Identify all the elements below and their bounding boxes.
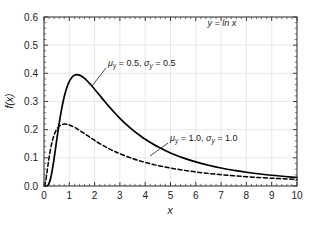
x-tick-label: 9 <box>269 190 275 201</box>
y-tick-label: 0.4 <box>24 68 38 79</box>
x-tick-label: 8 <box>244 190 250 201</box>
y-axis-title: f(x) <box>3 93 15 108</box>
y-tick-label: 0.2 <box>24 124 38 135</box>
x-tick-label: 1 <box>67 190 73 201</box>
x-tick-label: 5 <box>168 190 174 201</box>
transform-annotation-text: y = ln x <box>207 18 237 28</box>
y-tick-label: 0.6 <box>24 12 38 23</box>
chart-canvas: 012345678910 0.00.10.20.30.40.50.6 x f(x… <box>0 0 309 225</box>
x-axis-title: x <box>166 204 173 216</box>
x-tick-label: 4 <box>142 190 148 201</box>
x-tick-label: 7 <box>218 190 224 201</box>
y-tick-label: 0.5 <box>24 40 38 51</box>
y-tick-label: 0.3 <box>24 96 38 107</box>
x-tick-label: 0 <box>41 190 47 201</box>
y-tick-label: 0.0 <box>24 181 38 192</box>
x-tick-label: 10 <box>291 190 303 201</box>
y-tick-label: 0.1 <box>24 152 38 163</box>
transform-annotation: y = ln x <box>207 18 237 28</box>
lognormal-pdf-chart: 012345678910 0.00.10.20.30.40.50.6 x f(x… <box>0 0 309 225</box>
x-tick-label: 2 <box>92 190 98 201</box>
x-tick-label: 3 <box>117 190 123 201</box>
x-tick-label: 6 <box>193 190 199 201</box>
